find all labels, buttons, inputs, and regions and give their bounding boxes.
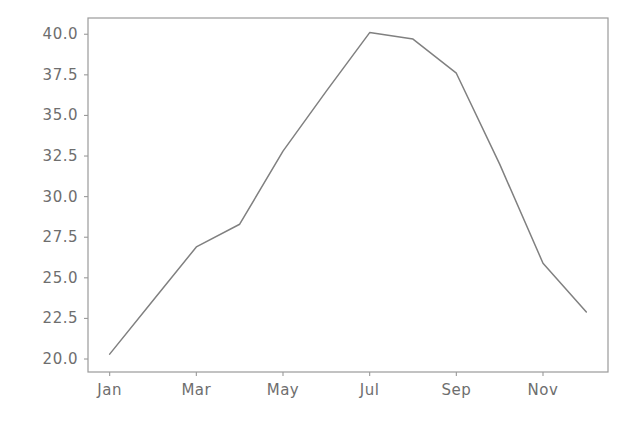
x-axis-tick-label: Jul — [330, 381, 410, 399]
y-axis-tick-label: 37.5 — [20, 66, 78, 84]
x-axis-tick-label: Nov — [503, 381, 583, 399]
chart-figure: 20.022.525.027.530.032.535.037.540.0 Jan… — [0, 0, 641, 421]
y-axis-tick-label: 22.5 — [20, 309, 78, 327]
y-axis-tick-label: 35.0 — [20, 106, 78, 124]
x-axis-tick-label: Sep — [416, 381, 496, 399]
y-axis-tick-label: 20.0 — [20, 350, 78, 368]
y-axis-tick-label: 32.5 — [20, 147, 78, 165]
y-axis-tick-label: 30.0 — [20, 188, 78, 206]
y-axis-tick-label: 40.0 — [20, 25, 78, 43]
x-axis-tick-label: Mar — [156, 381, 236, 399]
x-axis-tick-label: Jan — [70, 381, 150, 399]
y-axis-tick-label: 27.5 — [20, 228, 78, 246]
y-axis-tick-label: 25.0 — [20, 269, 78, 287]
plot-background — [88, 18, 608, 372]
x-axis-tick-label: May — [243, 381, 323, 399]
line-chart-plot — [0, 0, 641, 421]
